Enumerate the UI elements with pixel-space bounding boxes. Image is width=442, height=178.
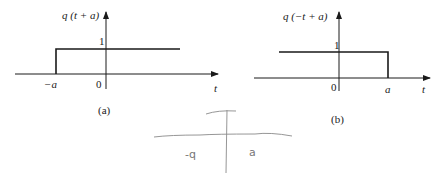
- edge-label: a: [385, 83, 391, 95]
- signal-diagram: q (t + a) 1 −a 0 t (a) q (−t + a) 1 0 a …: [0, 0, 442, 178]
- handwritten-sketch: -q a: [154, 110, 292, 173]
- sketch-left-label: -q: [185, 148, 196, 161]
- sketch-left-stroke: [154, 135, 200, 137]
- x-axis-label: t: [422, 83, 426, 95]
- sketch-center-stroke: [200, 134, 255, 135]
- panel-b: q (−t + a) 1 0 a t (b): [254, 10, 430, 126]
- caption: (a): [98, 104, 111, 117]
- sketch-top-stroke: [206, 111, 236, 114]
- step-signal: [279, 52, 388, 78]
- edge-label: −a: [44, 78, 57, 90]
- origin-label: 0: [331, 81, 337, 93]
- sketch-right-stroke: [255, 133, 292, 136]
- panel-a: q (t + a) 1 −a 0 t (a): [15, 9, 218, 117]
- step-signal: [56, 49, 180, 74]
- sketch-vertical-axis: [226, 110, 227, 173]
- level-label: 1: [99, 35, 105, 47]
- y-axis-label: q (t + a): [62, 9, 99, 22]
- x-axis-label: t: [214, 82, 218, 94]
- sketch-right-label: a: [249, 146, 256, 159]
- level-label: 1: [334, 39, 340, 51]
- y-axis-label: q (−t + a): [283, 10, 328, 23]
- caption: (b): [331, 113, 344, 126]
- origin-label: 0: [96, 78, 102, 90]
